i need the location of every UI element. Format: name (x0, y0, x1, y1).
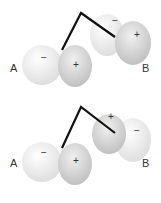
sign-b-back: − (112, 15, 118, 26)
sign-a-right: + (73, 59, 79, 70)
sign-a-right: + (73, 155, 79, 166)
panel-top: A − + B − + (10, 13, 151, 87)
panel-bottom: A − + B + − (10, 107, 151, 185)
atom-a-orbital (22, 45, 92, 87)
atom-a-orbital (22, 142, 92, 185)
sign-b-front: + (134, 29, 140, 40)
sign-b-back: + (108, 111, 114, 122)
label-atom-b: B (142, 157, 149, 169)
label-atom-a: A (10, 62, 18, 74)
sign-a-left: − (41, 147, 47, 158)
sign-a-left: − (41, 52, 47, 63)
label-atom-a: A (10, 157, 18, 169)
sign-b-front: − (134, 125, 140, 136)
label-atom-b: B (142, 62, 149, 74)
orbital-overlap-diagram: A − + B − + A − + B + − (0, 0, 161, 203)
atom-b-orbital (90, 14, 151, 65)
